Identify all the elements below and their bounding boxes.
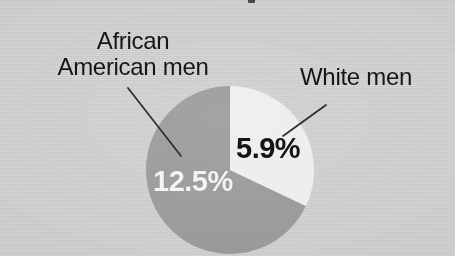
chart-canvas: 5.9% 12.5% African American men White me… [0, 0, 455, 256]
callout-label-african-american-men: African American men [28, 28, 238, 80]
slice-value-african-american-men: 12.5% [153, 167, 233, 196]
slice-value-white-men: 5.9% [236, 134, 300, 163]
callout-label-white-men: White men [300, 64, 412, 90]
callout-line-2: American men [28, 54, 238, 80]
callout-line-1: African [28, 28, 238, 54]
